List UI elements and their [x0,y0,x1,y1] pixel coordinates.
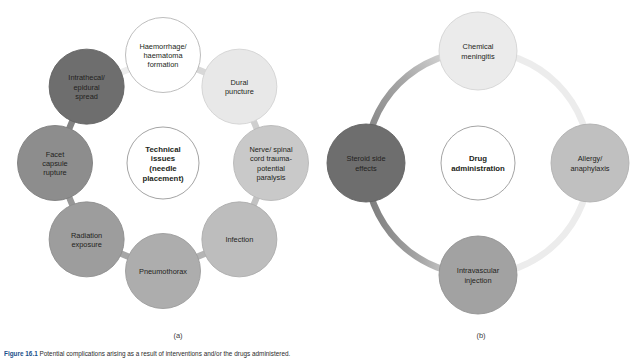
panel-letter-a: (a) [158,331,198,340]
figure-caption-number: Figure 16.1 [4,350,38,357]
panel-letter-b: (b) [461,331,501,340]
diagram-b-canvas: ChemicalmeningitisAllergy/anaphylaxisInt… [318,0,636,340]
node-label-infection: Infection [225,235,253,244]
figure-16-1: Haemorrhage/haematomaformationDuralpunct… [0,0,636,359]
node-label-facet-capsule-rupture: Facetcapsulerupture [42,150,67,177]
node-label-radiation-exposure: Radiationexposure [71,231,102,249]
diagram-a-technical-issues: Haemorrhage/haematomaformationDuralpunct… [0,0,318,340]
diagram-b-drug-administration: ChemicalmeningitisAllergy/anaphylaxisInt… [318,0,636,340]
diagram-a-canvas: Haemorrhage/haematomaformationDuralpunct… [0,0,318,340]
figure-caption: Figure 16.1 Potential complications aris… [4,350,632,358]
node-label-chemical-meningitis: Chemicalmeningitis [461,42,495,60]
figure-caption-text: Potential complications arising as a res… [40,350,291,357]
node-label-pneumothorax: Pneumothorax [139,267,187,276]
